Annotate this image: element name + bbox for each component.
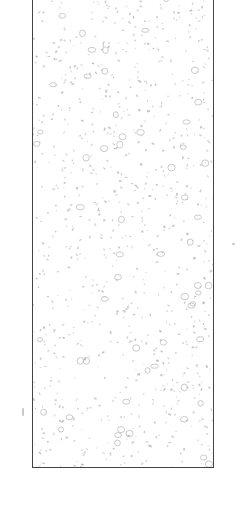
stray-mark-right (232, 243, 235, 245)
stray-mark-left (22, 408, 24, 416)
speckle-pattern (33, 0, 214, 468)
texture-swatch (32, 0, 214, 468)
